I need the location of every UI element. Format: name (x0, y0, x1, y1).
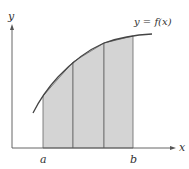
x-axis-label: x (179, 141, 186, 154)
x-axis-arrow-icon (170, 146, 176, 150)
trapezoid-rule-diagram: y x y = f(x) a b (0, 0, 189, 169)
trapezoid-1 (43, 62, 73, 148)
tick-label-b: b (130, 153, 137, 166)
trapezoid-3 (104, 36, 133, 148)
tick-label-a: a (40, 153, 47, 166)
trapezoids (43, 36, 133, 148)
curve-label: y = f(x) (133, 16, 172, 27)
y-axis-label: y (7, 10, 15, 23)
y-axis-arrow-icon (10, 24, 14, 30)
